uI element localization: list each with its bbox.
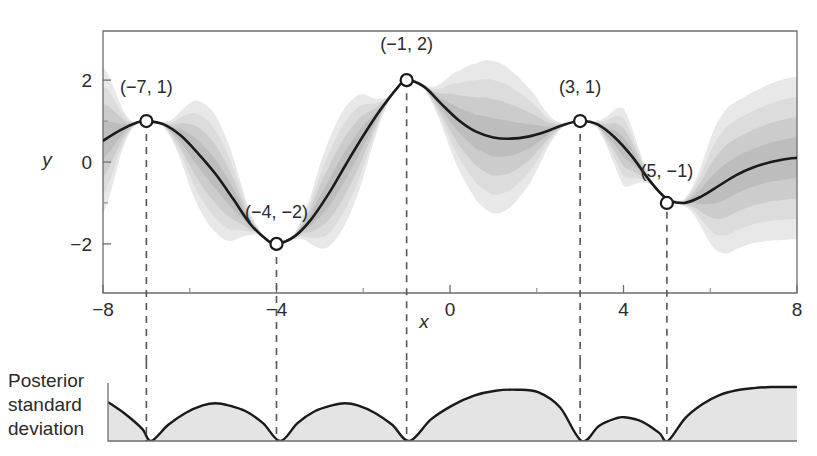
observation-point[interactable]: [574, 115, 586, 127]
posterior-std-label-line-3: deviation: [8, 418, 84, 439]
x-axis-label: x: [418, 311, 430, 332]
observation-label: (3, 1): [559, 77, 601, 97]
posterior-std-label-line-1: Posterior: [8, 370, 85, 391]
y-axis-label: y: [40, 149, 53, 170]
observation-label: (−4, −2): [245, 202, 308, 222]
observation-point[interactable]: [401, 74, 413, 86]
x-tick-label: −4: [266, 299, 288, 320]
observation-label: (−7, 1): [120, 77, 173, 97]
x-tick-label: −8: [92, 299, 114, 320]
observation-label: (5, −1): [641, 161, 694, 181]
figure-background: [0, 0, 817, 456]
observation-label: (−1, 2): [380, 34, 433, 54]
x-tick-label: 4: [618, 299, 629, 320]
y-tick-label: 0: [81, 152, 92, 173]
observation-point[interactable]: [661, 197, 673, 209]
x-tick-label: 8: [792, 299, 803, 320]
observation-point[interactable]: [271, 238, 283, 250]
x-tick-label: 0: [445, 299, 456, 320]
posterior-std-label-line-2: standard: [8, 394, 82, 415]
observation-point[interactable]: [140, 115, 152, 127]
y-tick-label: 2: [81, 70, 92, 91]
y-tick-label: −2: [70, 234, 92, 255]
gaussian-process-figure: (−7, 1)(−4, −2)(−1, 2)(3, 1)(5, −1) −8−4…: [0, 0, 817, 456]
